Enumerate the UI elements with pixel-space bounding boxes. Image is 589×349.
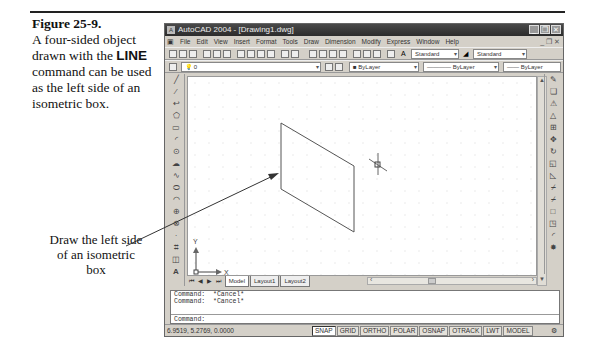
callout-leader <box>0 0 589 349</box>
arrowhead-icon <box>268 173 279 180</box>
